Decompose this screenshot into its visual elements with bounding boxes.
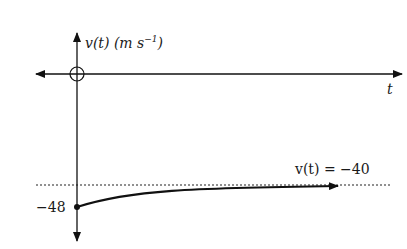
velocity-curve	[77, 186, 338, 207]
asymptote-label: v(t) = −40	[294, 161, 370, 177]
x-axis-label: t	[387, 81, 393, 97]
y-axis-label: v(t) (m s−1)	[85, 34, 163, 51]
initial-point	[74, 204, 80, 210]
y-intercept-label: −48	[36, 199, 66, 215]
velocity-graph: v(t) (m s−1) t −48 v(t) = −40	[0, 0, 407, 249]
